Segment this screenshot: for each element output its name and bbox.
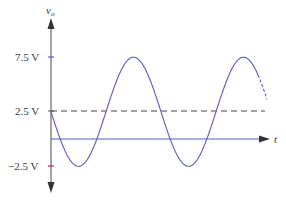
- waveform-chart: vo 7.5 V 2.5 V −2.5 V t: [0, 0, 286, 202]
- t-axis-label: t: [274, 133, 278, 145]
- y-axis-label: vo: [46, 4, 55, 18]
- tick-label-neg-2.5: −2.5 V: [8, 160, 39, 172]
- tick-label-7.5: 7.5 V: [15, 51, 39, 63]
- tick-label-2.5: 2.5 V: [15, 105, 39, 117]
- t-axis-arrow-icon: [259, 136, 270, 143]
- y-axis: [48, 18, 55, 193]
- t-axis: [51, 136, 270, 143]
- waveform-curve: [51, 57, 258, 166]
- y-axis-arrow-up-icon: [48, 18, 55, 29]
- waveform-dashed-tail: [258, 75, 267, 100]
- y-axis-arrow-down-icon: [48, 182, 55, 193]
